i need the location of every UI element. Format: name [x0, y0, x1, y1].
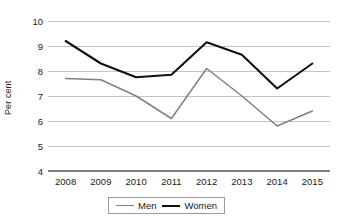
y-tick-label: 6 [38, 116, 43, 127]
y-tick-label: 10 [32, 16, 43, 27]
y-tick-label: 4 [38, 166, 43, 177]
legend-item-women: Women [162, 200, 217, 211]
x-tick-label: 2011 [161, 176, 181, 187]
legend-label-women: Women [184, 200, 217, 211]
legend-label-men: Men [138, 200, 156, 211]
y-tick-label: 5 [38, 141, 43, 152]
gridlines [48, 21, 330, 171]
y-tick-label: 9 [38, 41, 43, 52]
legend-swatch-women [162, 205, 180, 207]
legend-item-men: Men [116, 200, 156, 211]
x-tick-label: 2015 [302, 176, 323, 187]
y-axis-title: Per cent [1, 58, 15, 138]
y-tick-label: 7 [38, 91, 43, 102]
x-tick-label: 2009 [90, 176, 111, 187]
chart-canvas [48, 21, 330, 171]
series-lines [66, 41, 313, 126]
legend-swatch-men [116, 205, 134, 206]
line-chart: Per cent 45678910 2008200920102011201220… [0, 0, 337, 221]
plot-area: 45678910 2008200920102011201220132014201… [48, 21, 330, 171]
x-tick-label: 2012 [196, 176, 217, 187]
x-tick-label: 2010 [126, 176, 147, 187]
x-tick-label: 2013 [231, 176, 252, 187]
y-tick-label: 8 [38, 66, 43, 77]
series-line-men [66, 69, 313, 127]
x-tick-label: 2014 [267, 176, 288, 187]
chart-legend: Men Women [108, 197, 225, 214]
x-tick-label: 2008 [55, 176, 76, 187]
